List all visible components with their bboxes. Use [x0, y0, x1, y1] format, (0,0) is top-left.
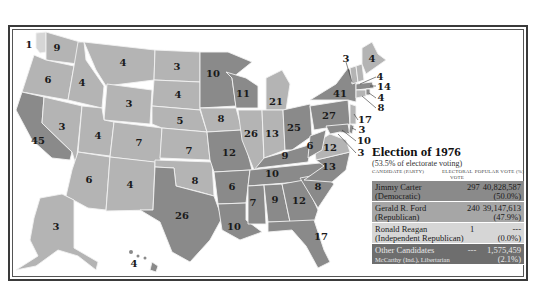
candidate-party: McCarthy (Ind.), Libertarian — [375, 255, 467, 264]
state-de[interactable] — [349, 124, 354, 134]
label-oh: 25 — [287, 122, 301, 133]
state-nj[interactable] — [350, 104, 356, 124]
label-vt: 3 — [343, 53, 350, 64]
label-nm: 4 — [127, 179, 134, 190]
label-nd: 3 — [174, 61, 181, 72]
label-id: 4 — [79, 77, 86, 88]
popular-percent: (0.0%) — [477, 234, 521, 243]
state-fl[interactable] — [268, 220, 330, 268]
label-ut: 4 — [95, 130, 102, 141]
candidate-party: (Republican) — [375, 213, 467, 222]
label-ok: 8 — [192, 175, 199, 186]
label-ga: 12 — [292, 195, 306, 206]
legend-row-other: Other CandidatesMcCarthy (Ind.), Liberta… — [372, 244, 524, 265]
popular-percent: (50.0%) — [477, 192, 521, 201]
label-ak: 3 — [53, 221, 60, 232]
label-sc: 8 — [315, 181, 322, 192]
label-la: 10 — [227, 221, 241, 232]
label-ca: 45 — [31, 135, 45, 146]
label-ar: 6 — [229, 181, 236, 192]
legend-title: Election of 1976 — [372, 145, 524, 159]
label-hi: 4 — [131, 258, 138, 269]
state-hi-island — [129, 250, 133, 254]
label-wv: 6 — [307, 140, 314, 151]
popular-percent: (47.9%) — [477, 213, 521, 222]
label-mt: 4 — [120, 57, 127, 68]
label-dc: 3 — [358, 147, 365, 158]
state-ri[interactable] — [366, 89, 370, 95]
state-hi-island — [144, 257, 147, 260]
label-al: 9 — [272, 194, 279, 205]
legend-row-carter: Jimmy Carter(Democratic) 297 40,828,587(… — [372, 181, 524, 202]
header-popular: POPULAR VOTE (%) — [472, 169, 524, 181]
label-il: 26 — [244, 128, 258, 139]
header-electoral: ELECTORAL VOTE — [442, 169, 472, 181]
label-co: 7 — [136, 137, 143, 148]
legend-row-ford: Gerald R. Ford(Republican) 240 39,147,61… — [372, 202, 524, 223]
label-ky: 9 — [282, 150, 289, 161]
label-ct: 8 — [378, 102, 385, 113]
label-ma: 14 — [377, 81, 391, 92]
candidate-name: Other Candidates — [375, 246, 467, 255]
label-mn: 10 — [206, 68, 220, 79]
legend-row-reagan: Ronald Reagan(Independent Republican) 1 … — [372, 223, 524, 244]
label-or: 6 — [45, 74, 52, 85]
label-nc: 13 — [322, 161, 336, 172]
label-in: 13 — [265, 128, 279, 139]
header-candidate: CANDIDATE (PARTY) — [372, 169, 442, 181]
label-pa: 27 — [322, 110, 336, 121]
electoral-vote: 240 — [467, 204, 477, 213]
legend-header: CANDIDATE (PARTY) ELECTORAL VOTE POPULAR… — [372, 169, 524, 181]
label-ne: 5 — [177, 115, 184, 126]
label-va: 12 — [323, 142, 337, 153]
label-tn: 10 — [265, 168, 279, 179]
label-mo: 12 — [222, 147, 236, 158]
label-de: 3 — [359, 124, 366, 135]
label-ia: 8 — [218, 113, 225, 124]
leader-line — [369, 93, 376, 98]
label-mi: 21 — [269, 96, 283, 107]
state-hi[interactable] — [150, 262, 158, 272]
electoral-vote: 1 — [467, 225, 477, 234]
label-wa-split: 1 — [26, 39, 33, 50]
label-fl: 17 — [314, 231, 328, 242]
label-az: 6 — [86, 174, 93, 185]
label-sd: 4 — [175, 89, 182, 100]
leader-line — [362, 96, 376, 108]
state-md[interactable] — [326, 124, 350, 134]
state-wa-split[interactable] — [36, 32, 46, 53]
label-tx: 26 — [175, 210, 189, 221]
election-legend: Election of 1976 (53.5% of electorate vo… — [372, 145, 524, 265]
state-ct[interactable] — [356, 90, 366, 98]
label-md: 10 — [357, 135, 371, 146]
electoral-vote: 297 — [467, 183, 477, 192]
label-wi: 11 — [236, 88, 250, 99]
label-ny: 41 — [333, 88, 347, 99]
label-me: 4 — [369, 53, 376, 64]
candidate-party: (Democratic) — [375, 192, 467, 201]
label-ks: 7 — [186, 145, 193, 156]
label-ms: 7 — [250, 197, 257, 208]
label-wa: 9 — [54, 42, 61, 53]
electoral-vote: --- — [467, 246, 477, 255]
candidate-party: (Independent Republican) — [375, 234, 467, 243]
popular-percent: (2.1%) — [477, 255, 521, 264]
legend-subtitle: (53.5% of electorate voting) — [372, 159, 524, 168]
label-nv: 3 — [59, 121, 66, 132]
label-wy: 3 — [126, 98, 133, 109]
